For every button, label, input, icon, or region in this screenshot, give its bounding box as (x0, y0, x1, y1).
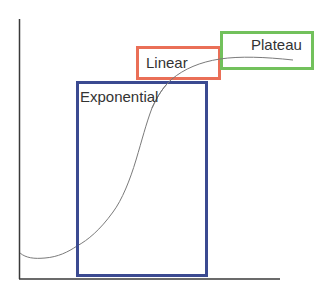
exponential-phase-box (76, 81, 208, 277)
exponential-label: Exponential (80, 89, 158, 104)
growth-phase-diagram: Exponential Linear Plateau (0, 0, 329, 295)
linear-label: Linear (146, 55, 188, 70)
plateau-label: Plateau (251, 37, 302, 52)
